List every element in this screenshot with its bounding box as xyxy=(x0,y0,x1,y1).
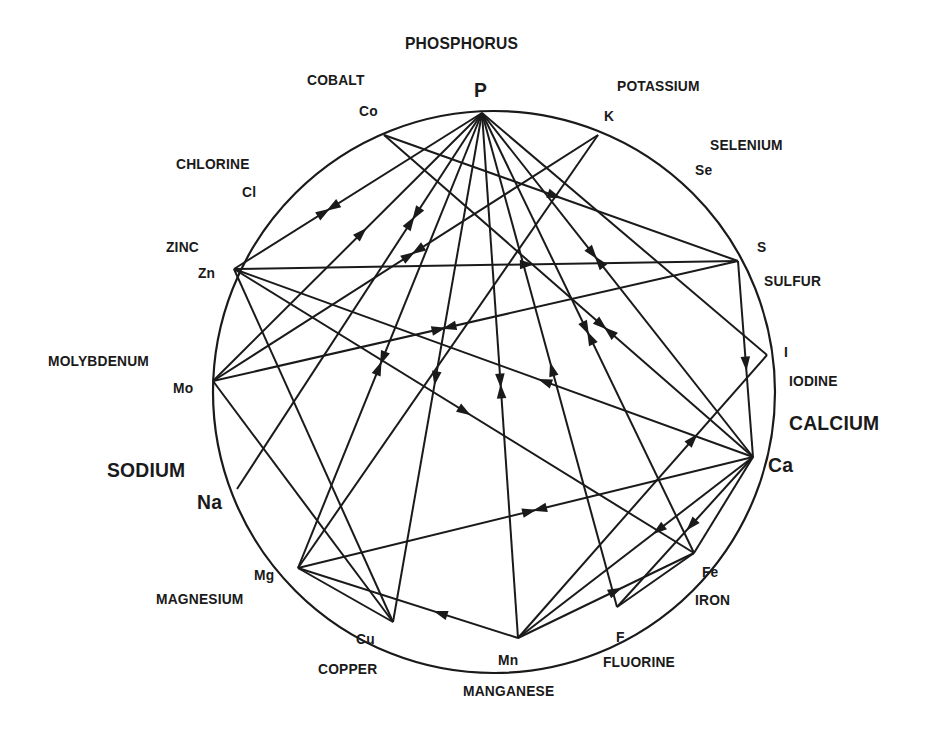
arrow-marker-icon xyxy=(433,611,448,620)
arrow-marker-icon xyxy=(456,404,471,416)
label-sulfur: SULFUR xyxy=(764,272,821,289)
label-cobalt: COBALT xyxy=(307,71,365,88)
label-k: K xyxy=(604,107,614,124)
label-magnesium: MAGNESIUM xyxy=(156,590,244,607)
interaction-markers xyxy=(315,189,750,620)
arrow-marker-icon xyxy=(584,245,607,270)
label-cu: Cu xyxy=(356,630,375,647)
interaction-line-Mo-Cu xyxy=(213,381,393,622)
label-f: F xyxy=(616,628,625,645)
interaction-line-P-F xyxy=(482,113,617,607)
label-i: I xyxy=(784,343,788,360)
label-zinc: ZINC xyxy=(166,238,199,255)
label-zn: Zn xyxy=(198,264,215,281)
arrow-marker-icon xyxy=(432,371,441,386)
interaction-line-Ca-Mn xyxy=(518,457,753,638)
label-selenium: SELENIUM xyxy=(710,136,783,153)
interaction-line-Fe-F xyxy=(617,553,694,607)
label-phosphorus: PHOSPHORUS xyxy=(405,34,518,54)
arrow-marker-icon xyxy=(495,373,506,398)
interaction-line-Mg-Cu xyxy=(298,568,393,622)
label-mn: Mn xyxy=(498,651,518,668)
interaction-line-P-Zn xyxy=(234,113,482,269)
arrow-marker-icon xyxy=(521,503,547,518)
label-co: Co xyxy=(359,102,378,119)
label-se: Se xyxy=(695,161,712,178)
interaction-line-Ca-F xyxy=(617,457,753,607)
label-copper: COPPER xyxy=(318,660,377,677)
label-fe: Fe xyxy=(702,563,718,580)
label-mo: Mo xyxy=(173,379,193,396)
interaction-line-Mn-Mg xyxy=(298,568,518,638)
label-cl: Cl xyxy=(242,183,256,200)
label-ca: Ca xyxy=(768,453,793,477)
interaction-line-S-Mo xyxy=(213,261,738,381)
label-sodium: SODIUM xyxy=(107,458,185,482)
label-potassium: POTASSIUM xyxy=(617,77,700,94)
label-iron: IRON xyxy=(695,591,730,608)
label-manganese: MANGANESE xyxy=(463,682,554,699)
label-chlorine: CHLORINE xyxy=(176,155,250,172)
label-s: S xyxy=(757,238,766,255)
label-calcium: CALCIUM xyxy=(789,411,879,435)
wheel-circle xyxy=(213,111,775,673)
arrow-marker-icon xyxy=(549,362,558,377)
interaction-line-P-Ca xyxy=(482,113,753,457)
label-iodine: IODINE xyxy=(789,372,838,389)
arrow-marker-icon xyxy=(403,205,425,231)
label-mg: Mg xyxy=(254,566,274,583)
interaction-line-Ca-Fe xyxy=(694,457,753,553)
label-na: Na xyxy=(197,490,222,514)
label-p: P xyxy=(474,78,487,102)
arrow-marker-icon xyxy=(538,379,553,388)
label-fluorine: FLUORINE xyxy=(603,653,675,670)
interaction-line-P-Na xyxy=(237,113,482,489)
label-molybdenum: MOLYBDENUM xyxy=(48,352,149,369)
arrow-marker-icon xyxy=(593,316,618,340)
arrow-marker-icon xyxy=(315,199,341,220)
